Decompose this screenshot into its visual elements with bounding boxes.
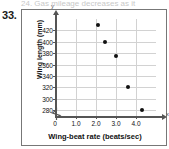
data-point [114, 54, 118, 58]
y-axis-arrow-icon [53, 10, 59, 15]
data-point [96, 23, 100, 27]
x-tick-label: 3.0 [111, 120, 120, 127]
gridline-h [56, 99, 156, 100]
x-axis-tip-label: x [166, 111, 169, 117]
figure-page: 24. Gas mileage decreases as it 33. Wing… [0, 0, 169, 149]
plot-area: 280300320340360380400420 1.02.03.04.0 y … [56, 19, 156, 116]
y-tick-label: 420 [42, 27, 53, 34]
x-tick-label: 4.0 [131, 120, 140, 127]
gridline-v [76, 19, 77, 116]
y-axis-line [55, 14, 57, 116]
y-tick-label: 340 [42, 73, 53, 80]
x-tick-label: 2.0 [91, 120, 100, 127]
data-point [140, 108, 144, 112]
gridline-h [56, 30, 156, 31]
x-axis-line [55, 116, 162, 118]
gridline-h [56, 76, 156, 77]
chart-figure-box: Wing length (mm) Wing-beat rate (beats/s… [21, 9, 167, 146]
question-number: 33. [2, 9, 17, 21]
gridline-h [56, 65, 156, 66]
y-tick-label: 400 [42, 38, 53, 45]
y-axis-tip-label: y [51, 3, 54, 9]
origin-label: 0 [53, 120, 57, 127]
y-tick-label: 380 [42, 50, 53, 57]
gridline-h [56, 53, 156, 54]
gridline-v [136, 19, 137, 116]
gridline-v [116, 19, 117, 116]
x-tick-label: 1.0 [71, 120, 80, 127]
data-point [103, 40, 107, 44]
x-axis-title: Wing-beat rate (beats/sec) [22, 132, 168, 141]
y-tick-label: 360 [42, 61, 53, 68]
gridline-v [96, 19, 97, 116]
y-tick-label: 300 [42, 95, 53, 102]
y-tick-label: 320 [42, 84, 53, 91]
data-point [126, 85, 130, 89]
axis-break-icon [50, 107, 63, 120]
cut-off-header-text: 24. Gas mileage decreases as it [21, 0, 169, 8]
gridline-h [56, 87, 156, 88]
